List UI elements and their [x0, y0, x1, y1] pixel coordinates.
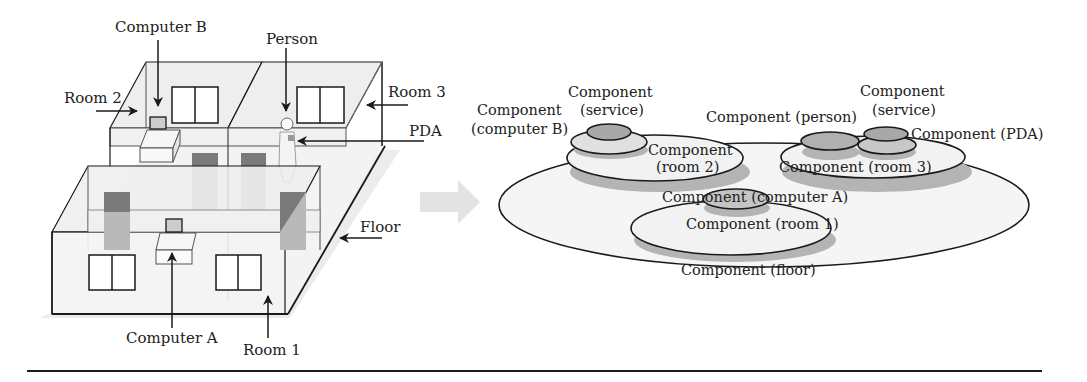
transform-arrow-icon: [420, 180, 480, 224]
label-floor: Floor: [360, 218, 401, 236]
label-computer-b: Computer B: [115, 18, 207, 36]
label-service-left-1: Component: [568, 84, 653, 100]
label-room-2: Room 2: [64, 89, 122, 107]
ellipse-service-right: [864, 127, 908, 141]
label-room-2-1: Component: [648, 142, 733, 158]
label-room-1: Component (room 1): [686, 216, 839, 232]
label-service-right-2: (service): [872, 102, 936, 118]
label-room-3: Component (room 3): [779, 159, 932, 175]
label-computer-b-1: Component: [477, 102, 562, 118]
pda-device: [288, 135, 294, 141]
label-person: Component (person): [706, 109, 857, 125]
label-computer-a: Computer A: [126, 329, 218, 347]
label-floor: Component (floor): [681, 262, 816, 278]
label-service-left-2: (service): [580, 102, 644, 118]
label-pda: Component (PDA): [911, 126, 1043, 142]
ellipse-service-left: [587, 124, 631, 140]
label-pda: PDA: [409, 122, 442, 140]
label-room-2-2: (room 2): [656, 159, 719, 175]
diagram-canvas: Computer B Person Room 2 Room 3 PDA Floo…: [0, 0, 1087, 382]
ellipse-person: [801, 132, 859, 150]
label-computer-b-2: (computer B): [471, 121, 568, 137]
label-room-3: Room 3: [388, 83, 446, 101]
label-computer-a: Component (computer A): [662, 189, 848, 205]
label-room-1: Room 1: [243, 341, 301, 359]
label-service-right-1: Component: [860, 83, 945, 99]
label-person: Person: [266, 30, 318, 48]
